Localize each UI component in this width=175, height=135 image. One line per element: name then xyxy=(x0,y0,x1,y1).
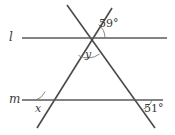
angle-label-x: x xyxy=(35,103,41,114)
angle-label-59: 59° xyxy=(99,18,119,29)
angle-arc-x xyxy=(36,92,45,101)
line-m-label: m xyxy=(9,93,20,105)
line-l-label: l xyxy=(9,31,13,43)
geometry-figure: l m 59° y x 51° xyxy=(0,0,175,135)
angle-label-y: y xyxy=(85,49,91,60)
angle-label-51: 51° xyxy=(144,103,164,114)
